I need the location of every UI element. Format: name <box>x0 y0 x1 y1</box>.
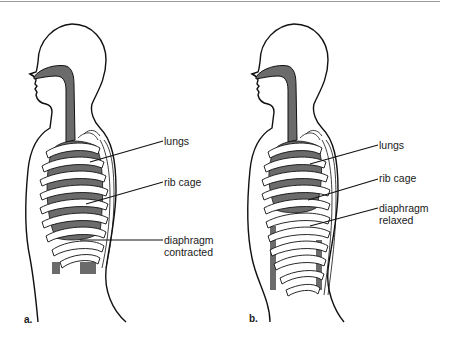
label-diaphragm: diaphragm <box>379 202 429 214</box>
panel-letter-a: a. <box>24 314 32 325</box>
label-diaphragm: diaphragm <box>164 234 214 246</box>
panel-a-diaphragm-contracted: lungs rib cage diaphragm contracted a. <box>0 0 226 341</box>
label-rib-cage: rib cage <box>379 172 416 184</box>
label-diaphragm-state: contracted <box>164 246 213 258</box>
panel-letter-b: b. <box>249 313 258 324</box>
label-diaphragm-state: relaxed <box>379 214 413 226</box>
label-lungs: lungs <box>379 139 404 151</box>
torso-illustration-b <box>226 0 453 341</box>
panel-b-diaphragm-relaxed: lungs rib cage diaphragm relaxed b. <box>226 0 452 341</box>
label-lungs: lungs <box>164 135 189 147</box>
label-rib-cage: rib cage <box>164 176 201 188</box>
torso-illustration-a <box>0 0 226 341</box>
